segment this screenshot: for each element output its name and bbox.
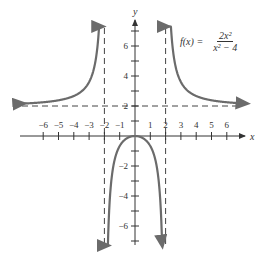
x-tick-label: 1	[148, 120, 153, 130]
formula-lhs: f(x) =	[180, 36, 203, 47]
y-axis-label: y	[132, 6, 138, 17]
x-tick-label: −6	[38, 120, 48, 130]
x-tick-label: −1	[115, 120, 125, 130]
curve-left-branch	[23, 27, 102, 104]
x-tick-label: 5	[209, 120, 214, 130]
y-tick-label: −2	[118, 161, 128, 171]
x-tick-label: −4	[69, 120, 79, 130]
formula-fraction: 2x² x² − 4	[211, 30, 239, 53]
x-tick-label: −5	[54, 120, 64, 130]
x-tick-label: 4	[194, 120, 199, 130]
function-graph: xy−6−5−4−3−2−1123456642−2−4−6 f(x) = 2x²…	[0, 0, 265, 256]
y-tick-label: 2	[124, 101, 129, 111]
formula-numerator: 2x²	[217, 30, 233, 42]
y-tick-label: 4	[124, 71, 129, 81]
x-tick-label: 6	[225, 120, 230, 130]
x-tick-label: 3	[179, 120, 184, 130]
y-tick-label: −6	[118, 221, 128, 231]
function-formula: f(x) = 2x² x² − 4	[180, 30, 239, 53]
x-tick-label: −2	[100, 120, 110, 130]
y-tick-label: −4	[118, 191, 128, 201]
y-tick-label: 6	[124, 41, 129, 51]
x-tick-label: 2	[163, 120, 168, 130]
x-axis-label: x	[249, 131, 255, 142]
x-tick-label: −3	[84, 120, 94, 130]
formula-denominator: x² − 4	[211, 42, 239, 53]
